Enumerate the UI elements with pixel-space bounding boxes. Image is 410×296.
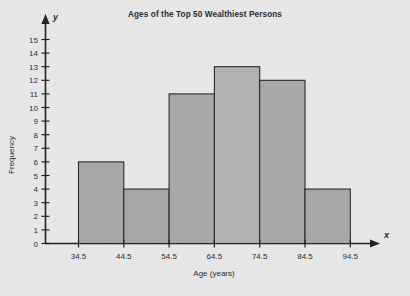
y-axis: y bbox=[41, 12, 59, 244]
histogram-chart: Ages of the Top 50 Wealthiest Persons y … bbox=[0, 0, 410, 296]
y-tick-label: 9 bbox=[34, 117, 39, 126]
y-tick-label: 0 bbox=[34, 240, 39, 249]
y-tick-label: 13 bbox=[29, 63, 38, 72]
x-tick-label: 54.5 bbox=[161, 252, 177, 261]
y-tick-label: 15 bbox=[29, 36, 38, 45]
y-axis-arrowhead bbox=[41, 14, 49, 24]
histogram-figure: Ages of the Top 50 Wealthiest Persons y … bbox=[0, 0, 410, 296]
y-tick-group: 0 1 2 3 4 5 6 7 8 9 10 11 12 13 bbox=[29, 36, 49, 249]
y-tick-label: 2 bbox=[34, 212, 39, 221]
bar-group bbox=[79, 67, 351, 244]
y-tick-label: 8 bbox=[34, 131, 39, 140]
y-tick-label: 7 bbox=[34, 144, 39, 153]
y-axis-symbol: y bbox=[52, 12, 59, 22]
bar-54.5-64.5 bbox=[169, 94, 214, 244]
y-tick-label: 6 bbox=[34, 158, 39, 167]
x-tick-label: 44.5 bbox=[116, 252, 132, 261]
y-tick-label: 3 bbox=[34, 199, 39, 208]
x-tick-label: 64.5 bbox=[207, 252, 223, 261]
y-axis-title: Frequency bbox=[7, 136, 16, 174]
y-tick-label: 4 bbox=[34, 185, 39, 194]
x-tick-label: 94.5 bbox=[343, 252, 359, 261]
bar-34.5-44.5 bbox=[79, 162, 124, 244]
bar-74.5-84.5 bbox=[260, 80, 305, 243]
bar-44.5-54.5 bbox=[124, 189, 169, 243]
x-tick-label: 74.5 bbox=[252, 252, 268, 261]
x-axis-title: Age (years) bbox=[193, 269, 235, 278]
y-tick-label: 12 bbox=[29, 76, 38, 85]
x-tick-label: 34.5 bbox=[71, 252, 87, 261]
bar-64.5-74.5 bbox=[214, 67, 259, 244]
y-tick-label: 10 bbox=[29, 104, 38, 113]
y-tick-label: 5 bbox=[34, 172, 39, 181]
y-tick-label: 11 bbox=[30, 90, 39, 99]
y-tick-label: 1 bbox=[34, 226, 39, 235]
x-tick-label: 84.5 bbox=[297, 252, 313, 261]
chart-title: Ages of the Top 50 Wealthiest Persons bbox=[128, 10, 282, 19]
bar-84.5-94.5 bbox=[305, 189, 350, 243]
x-axis-symbol: x bbox=[383, 230, 390, 240]
x-axis-arrowhead bbox=[370, 239, 380, 247]
y-tick-label: 14 bbox=[29, 49, 38, 58]
